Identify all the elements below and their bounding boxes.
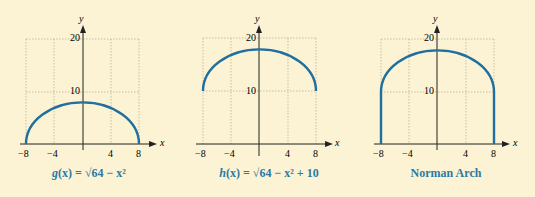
caption-g: g(x) = √64 − x² — [0, 166, 178, 181]
axis-label-x: x — [160, 137, 164, 148]
tick-y-20: 20 — [70, 32, 80, 43]
tick-x-neg8: −8 — [18, 148, 29, 159]
chart-h: y x 20 10 −8 −4 4 8 h(x) = √64 − x² + 10 — [180, 0, 358, 197]
tick-y-20: 20 — [424, 32, 434, 43]
tick-x-4: 4 — [463, 148, 468, 159]
tick-x-8: 8 — [136, 148, 141, 159]
tick-x-neg4: −4 — [224, 148, 235, 159]
tick-x-neg8: −8 — [195, 148, 206, 159]
tick-x-4: 4 — [285, 148, 290, 159]
axis-label-y: y — [79, 13, 83, 24]
chart-norman-arch: y x 20 10 −8 −4 4 8 Norman Arch — [357, 0, 535, 197]
tick-y-20: 20 — [246, 32, 256, 43]
tick-y-10: 10 — [246, 85, 256, 96]
axis-label-y: y — [255, 13, 259, 24]
tick-x-neg4: −4 — [47, 148, 58, 159]
tick-x-4: 4 — [108, 148, 113, 159]
caption-norman-arch: Norman Arch — [357, 166, 535, 181]
tick-x-8: 8 — [491, 148, 496, 159]
chart-g: y x 20 10 −8 −4 4 8 g(x) = √64 − x² — [0, 0, 178, 197]
tick-x-neg8: −8 — [373, 148, 384, 159]
axis-label-y: y — [433, 13, 437, 24]
tick-x-8: 8 — [313, 148, 318, 159]
caption-h: h(x) = √64 − x² + 10 — [180, 166, 358, 181]
tick-x-neg4: −4 — [402, 148, 413, 159]
tick-y-10: 10 — [424, 85, 434, 96]
axis-label-x: x — [513, 137, 517, 148]
axis-label-x: x — [335, 137, 339, 148]
tick-y-10: 10 — [70, 85, 80, 96]
